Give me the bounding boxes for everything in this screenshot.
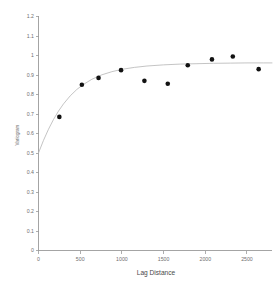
data-points-group — [57, 54, 261, 119]
x-tick-label: 2000 — [200, 256, 212, 262]
data-point — [165, 81, 170, 86]
y-tick-label: 1.1 — [27, 33, 34, 39]
data-point — [80, 82, 85, 87]
y-tick-label: 0.1 — [27, 228, 34, 234]
y-tick-label: 0.2 — [27, 208, 34, 214]
y-tick-label: 0.5 — [27, 150, 34, 156]
variogram-chart: 00.10.20.30.40.50.60.70.80.911.11.2 0500… — [0, 0, 275, 291]
data-point — [210, 57, 215, 62]
y-tick-label: 0.7 — [27, 111, 34, 117]
y-tick-label: 0 — [31, 247, 34, 253]
x-tick-label: 0 — [37, 256, 40, 262]
x-axis-title: Lag Distance — [137, 269, 176, 277]
y-tick-label: 0.9 — [27, 72, 34, 78]
chart-canvas: 00.10.20.30.40.50.60.70.80.911.11.2 0500… — [0, 0, 275, 291]
x-tick-label: 500 — [76, 256, 85, 262]
x-tick-label: 1500 — [158, 256, 170, 262]
fitted-model-curve — [39, 63, 273, 153]
y-tick-label: 1 — [31, 52, 34, 58]
x-axis-ticks: 05001000150020002500 — [37, 251, 253, 263]
data-point — [185, 63, 190, 68]
y-axis-title: Variogram — [15, 124, 20, 145]
data-point — [142, 79, 147, 84]
data-point — [256, 67, 261, 72]
data-point — [57, 115, 62, 120]
data-point — [96, 76, 101, 81]
y-tick-label: 0.8 — [27, 91, 34, 97]
axes-group — [38, 16, 272, 251]
y-tick-label: 1.2 — [27, 13, 34, 19]
y-axis-ticks: 00.10.20.30.40.50.60.70.80.911.11.2 — [27, 13, 39, 253]
data-point — [231, 54, 236, 59]
x-tick-label: 2500 — [241, 256, 253, 262]
y-tick-label: 0.6 — [27, 130, 34, 136]
x-tick-label: 1000 — [116, 256, 128, 262]
y-tick-label: 0.4 — [27, 169, 34, 175]
y-tick-label: 0.3 — [27, 189, 34, 195]
data-point — [119, 68, 124, 73]
